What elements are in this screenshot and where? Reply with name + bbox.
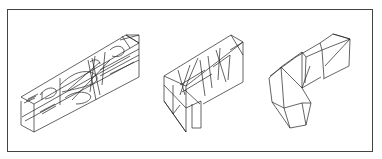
box2-diag — [180, 70, 205, 85]
box3-edge — [269, 67, 302, 88]
box1-band — [25, 62, 134, 121]
box1-outline — [21, 35, 139, 132]
box2-diag — [185, 90, 200, 104]
shape-3-polyhedron — [269, 34, 350, 128]
box2-diag — [228, 55, 230, 80]
box1-band — [100, 55, 139, 76]
box2-diag — [173, 105, 180, 114]
shape-1-long-box — [21, 35, 139, 132]
box1-curve — [110, 46, 124, 56]
box2-diag — [216, 50, 226, 82]
box1-line — [72, 60, 110, 100]
box2-diag — [208, 56, 212, 88]
box3-edge — [302, 103, 306, 125]
box2-diag — [213, 55, 230, 67]
box1-line — [24, 98, 35, 103]
box1-curve — [40, 88, 56, 99]
box3-edge — [284, 108, 290, 128]
box3-edge — [296, 43, 320, 57]
box2-edge — [186, 42, 243, 86]
box2-outline — [164, 35, 243, 104]
box2-diag — [218, 48, 220, 80]
box3-diag — [325, 39, 350, 66]
box2-diag — [230, 42, 243, 50]
box3-edge — [270, 57, 296, 76]
box2-diag — [200, 60, 205, 96]
box3-edge — [284, 103, 302, 108]
box2-diag — [182, 74, 212, 92]
shape-2-l-box — [164, 35, 243, 132]
box3-edge — [281, 52, 302, 67]
box3-edge — [323, 66, 349, 79]
box2-edge — [164, 101, 186, 132]
box3-diag — [302, 66, 310, 88]
box3-edge — [281, 67, 284, 108]
wireframe-figure — [0, 0, 382, 159]
box2-diag — [164, 85, 186, 108]
box3-edge — [322, 39, 350, 50]
box3-edge — [333, 34, 350, 39]
box1-band — [100, 49, 139, 70]
box1-edge — [126, 35, 139, 43]
box2-diag — [231, 35, 243, 55]
box2-edge — [164, 76, 186, 86]
box2-edge — [186, 101, 201, 108]
box3-edge — [306, 50, 324, 78]
box1-line — [28, 94, 38, 99]
box3-edge — [320, 34, 350, 50]
box3-edge — [349, 39, 350, 66]
